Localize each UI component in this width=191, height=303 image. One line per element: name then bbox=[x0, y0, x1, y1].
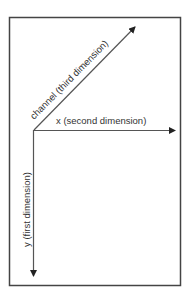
channel-axis-label: channel (third dimension) bbox=[28, 38, 111, 122]
y-axis-label: y (first dimension) bbox=[21, 172, 32, 247]
x-axis-label: x (second dimension) bbox=[56, 115, 146, 126]
tensor-axes-diagram: channel (third dimension) x (second dime… bbox=[0, 0, 191, 303]
